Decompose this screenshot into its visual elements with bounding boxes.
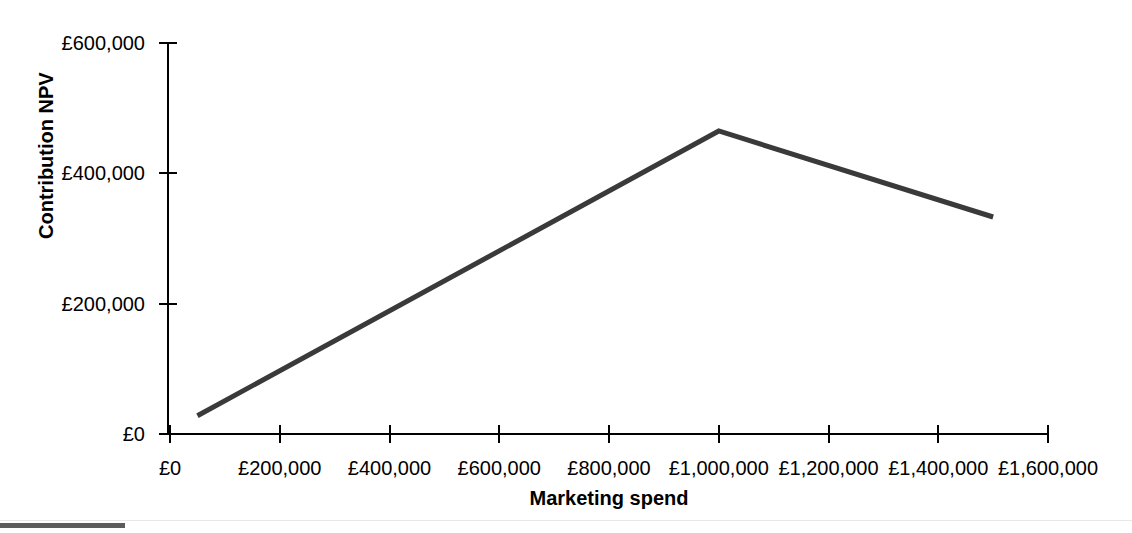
chart-canvas <box>0 0 1132 505</box>
x-axis-tick-label: £600,000 <box>458 458 541 478</box>
y-axis-tick-label: £600,000 <box>62 33 145 53</box>
x-axis-tick-label: £400,000 <box>348 458 431 478</box>
x-axis-tick-label: £0 <box>159 458 181 478</box>
data-series-line <box>197 131 993 416</box>
chart-figure: £0£200,000£400,000£600,000 £0£200,000£40… <box>0 0 1132 533</box>
x-axis-tick-label: £1,400,000 <box>888 458 988 478</box>
y-axis-tick-label: £400,000 <box>62 163 145 183</box>
y-axis-title-text: Contribution NPV <box>35 72 57 239</box>
x-axis-title: Marketing spend <box>530 488 689 508</box>
axis-ticks-group <box>159 43 1048 443</box>
footer-rule <box>0 520 1132 521</box>
x-axis-tick-label: £1,000,000 <box>669 458 769 478</box>
y-axis-tick-label: £200,000 <box>62 294 145 314</box>
x-axis-tick-label: £800,000 <box>567 458 650 478</box>
x-axis-tick-label: £1,600,000 <box>998 458 1098 478</box>
plot-area: £0£200,000£400,000£600,000 £0£200,000£40… <box>0 0 1132 505</box>
footer-tab <box>0 523 125 528</box>
x-axis-tick-label: £1,200,000 <box>778 458 878 478</box>
data-series-group <box>197 131 993 416</box>
axes-group <box>168 43 1048 434</box>
x-axis-tick-label: £200,000 <box>238 458 321 478</box>
y-axis-tick-label: £0 <box>123 424 145 444</box>
